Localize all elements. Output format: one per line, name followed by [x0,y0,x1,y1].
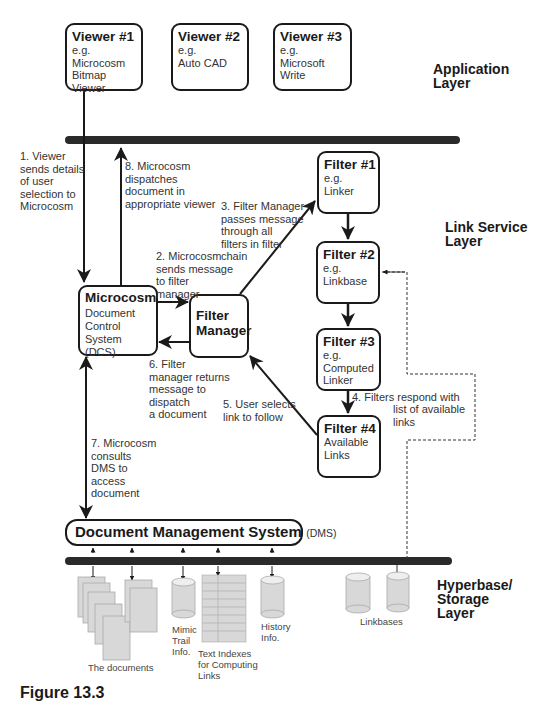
microcosm-desc: Document Control System (DCS) [85,307,151,359]
filter-4-desc: Available Links [324,436,374,461]
step-8-label: 8. Microcosm dispatches document in appr… [125,160,216,210]
history-info-label: History Info. [261,621,291,643]
viewer-2-desc: e.g. Auto CAD [178,44,242,69]
viewer-1-title: Viewer #1 [72,29,136,44]
microcosm-title: Microcosm [85,290,151,305]
filter-2-desc: e.g. Linkbase [323,262,373,287]
filter-3-title: Filter #3 [323,334,374,349]
linkbases-label: Linkbases [360,616,403,627]
documents-label: The documents [88,662,153,673]
viewer-3-desc: e.g. Microsoft Write [280,44,345,82]
step-1-label: 1. Viewer sends details of user selectio… [20,150,84,213]
step-7-label: 7. Microcosm consults DMS to access docu… [91,437,156,500]
text-indexes-label: Text Indexes for Computing Links [198,648,258,681]
application-layer-label: Application Layer [433,62,509,90]
filter-1-title: Filter #1 [324,157,373,172]
dms-abbr: (DMS) [306,527,336,539]
viewer-3-title: Viewer #3 [280,29,345,44]
mimic-trail-label: Mimic Trail Info. [172,624,197,657]
microcosm-dcs-box: Microcosm Document Control System (DCS) [78,285,158,356]
filter-4-title: Filter #4 [324,421,374,436]
documents-stack-icon [78,577,157,660]
filter-3-desc: e.g. Computed Linker [323,349,374,387]
text-indexes-table-icon [202,575,246,642]
filter-1-box: Filter #1 e.g. Linker [317,151,380,214]
viewer-2-box: Viewer #2 e.g. Auto CAD [171,23,249,91]
viewer-1-desc: e.g. Microcosm Bitmap Viewer [72,44,136,94]
dms-box: Document Management System (DMS) [65,519,303,546]
linkbase-cylinder-icon [346,572,409,613]
filter-3-box: Filter #3 e.g. Computed Linker [316,328,381,391]
storage-layer-label: Hyperbase/ Storage Layer [437,578,512,620]
filter-1-desc: e.g. Linker [324,172,373,197]
viewer-3-box: Viewer #3 e.g. Microsoft Write [273,23,352,91]
step-2-label: 2. Microcosm sends message to filter man… [156,250,233,300]
step-6-label: 6. Filter manager returns message to dis… [149,358,230,421]
step-4-label-line1: 4. Filters respond with [352,391,460,404]
mimic-trail-cylinder-icon [172,578,195,618]
step-4-label-line2: list of available links [393,403,465,428]
step-5-label: 5. User selects link to follow [223,398,296,423]
history-cylinder-icon [261,576,284,618]
filter-4-box: Filter #4 Available Links [317,415,381,478]
step-3-label: 3. Filter Manager passes message through… [221,200,304,263]
storage-bus-bottom [65,557,452,565]
link-service-layer-label: Link Service Layer [445,220,528,248]
link-service-bus-top [65,136,460,144]
filter-2-box: Filter #2 e.g. Linkbase [316,241,380,304]
viewer-1-box: Viewer #1 e.g. Microcosm Bitmap Viewer [65,23,143,91]
figure-caption: Figure 13.3 [20,684,104,702]
viewer-2-title: Viewer #2 [178,29,242,44]
filter-2-title: Filter #2 [323,247,373,262]
filter-manager-box: Filter Manager [189,294,249,358]
filter-manager-title: Filter Manager [196,308,242,338]
dms-title: Document Management System [75,523,302,540]
